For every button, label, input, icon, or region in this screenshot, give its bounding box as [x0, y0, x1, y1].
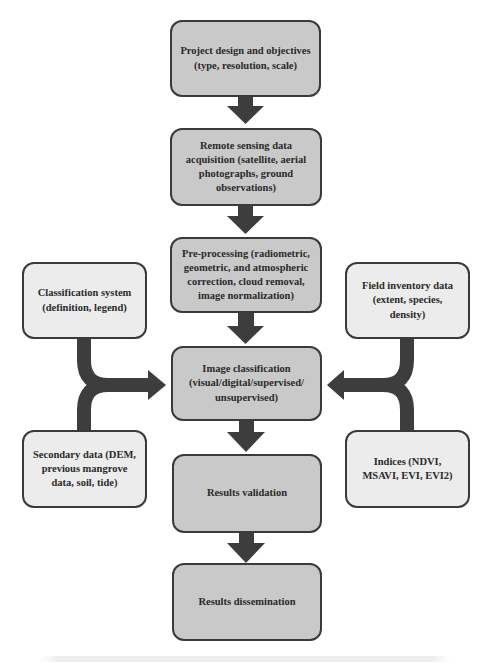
input-field-inventory: Field inventory data (extent, species, d… [345, 262, 470, 339]
step-data-acquisition: Remote sensing data acquisition (satelli… [170, 128, 322, 206]
input-indices: Indices (NDVI, MSAVI, EVI, EVI2) [345, 430, 470, 508]
arrow-down-4 [227, 420, 265, 452]
input-secondary-data: Secondary data (DEM, previous mangrove d… [22, 430, 147, 508]
arrow-down-1 [227, 96, 264, 124]
step-results-dissemination: Results dissemination [172, 563, 322, 641]
left-merge-arrow [84, 338, 150, 430]
arrow-down-2 [227, 205, 264, 234]
input-label: Field inventory data (extent, species, d… [357, 279, 458, 322]
right-merge-arrow [343, 338, 407, 430]
left-merge-arrowhead [148, 370, 166, 400]
input-label: Secondary data (DEM, previous mangrove d… [32, 448, 137, 491]
step-label: Image classification (visual/digital/sup… [181, 362, 312, 405]
step-image-classification: Image classification (visual/digital/sup… [171, 346, 322, 421]
input-label: Classification system (definition, legen… [34, 286, 135, 314]
step-label: Results validation [207, 486, 287, 500]
step-label: Pre-processing (radiometric, geometric, … [178, 247, 314, 304]
step-label: Project design and objectives (type, res… [180, 44, 311, 72]
input-label: Indices (NDVI, MSAVI, EVI, EVI2) [357, 455, 458, 483]
right-merge-arrowhead [327, 370, 344, 400]
input-classification-system: Classification system (definition, legen… [22, 262, 147, 339]
step-label: Results dissemination [198, 595, 295, 609]
step-label: Remote sensing data acquisition (satelli… [184, 139, 308, 196]
faded-caption-line [0, 656, 490, 662]
step-pre-processing: Pre-processing (radiometric, geometric, … [170, 237, 322, 313]
arrow-down-3 [227, 312, 264, 344]
step-results-validation: Results validation [172, 454, 322, 533]
arrow-down-5 [227, 532, 265, 563]
step-project-design: Project design and objectives (type, res… [170, 20, 321, 97]
